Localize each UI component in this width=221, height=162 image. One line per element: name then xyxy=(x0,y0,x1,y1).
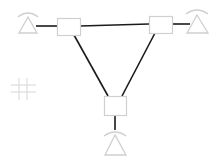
node-left[interactable] xyxy=(58,19,81,36)
hash-icon xyxy=(11,78,36,100)
antenna-right-icon xyxy=(186,10,208,33)
nodes xyxy=(58,17,173,116)
link-left-bottom xyxy=(74,35,108,96)
link-right-bottom xyxy=(122,33,155,96)
network-diagram xyxy=(0,0,221,162)
antenna-left-icon xyxy=(18,13,38,33)
antenna-bottom-icon xyxy=(104,132,126,155)
antennas xyxy=(18,10,208,155)
node-bottom[interactable] xyxy=(105,97,127,116)
link-left-right xyxy=(80,24,149,26)
node-right[interactable] xyxy=(150,17,173,34)
